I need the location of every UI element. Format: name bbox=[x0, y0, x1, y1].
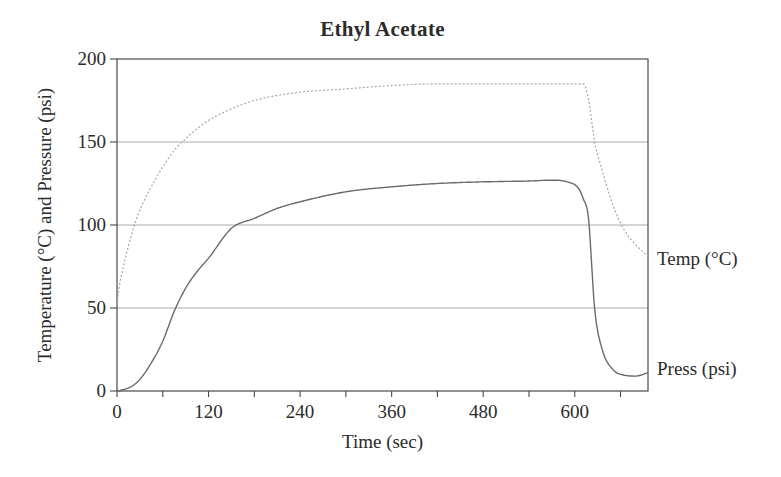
chart-figure: Ethyl Acetate Temperature (°C) and Press… bbox=[0, 0, 781, 477]
press-curve bbox=[117, 180, 648, 391]
x-axis-label: Time (sec) bbox=[117, 431, 648, 453]
chart-title: Ethyl Acetate bbox=[117, 17, 648, 42]
series-label-press: Press (psi) bbox=[657, 358, 737, 380]
x-tick-label: 600 bbox=[540, 402, 610, 422]
x-tick-label: 0 bbox=[82, 402, 152, 422]
y-tick-label: 50 bbox=[38, 298, 106, 318]
x-tick-label: 240 bbox=[265, 402, 335, 422]
y-tick-label: 0 bbox=[38, 381, 106, 401]
x-tick-label: 360 bbox=[357, 402, 427, 422]
y-tick-label: 100 bbox=[38, 215, 106, 235]
y-tick-label: 200 bbox=[38, 49, 106, 69]
x-tick-label: 480 bbox=[448, 402, 518, 422]
series-label-temp: Temp (°C) bbox=[657, 248, 738, 270]
x-tick-label: 120 bbox=[174, 402, 244, 422]
y-tick-label: 150 bbox=[38, 132, 106, 152]
